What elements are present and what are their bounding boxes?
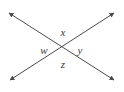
angle-label-w: w (40, 45, 47, 56)
intersecting-lines-svg (0, 0, 124, 92)
angle-diagram-figure: x w y z (0, 0, 124, 92)
angle-label-x: x (61, 27, 66, 38)
angle-label-z: z (61, 59, 65, 70)
angle-label-y: y (78, 45, 83, 56)
